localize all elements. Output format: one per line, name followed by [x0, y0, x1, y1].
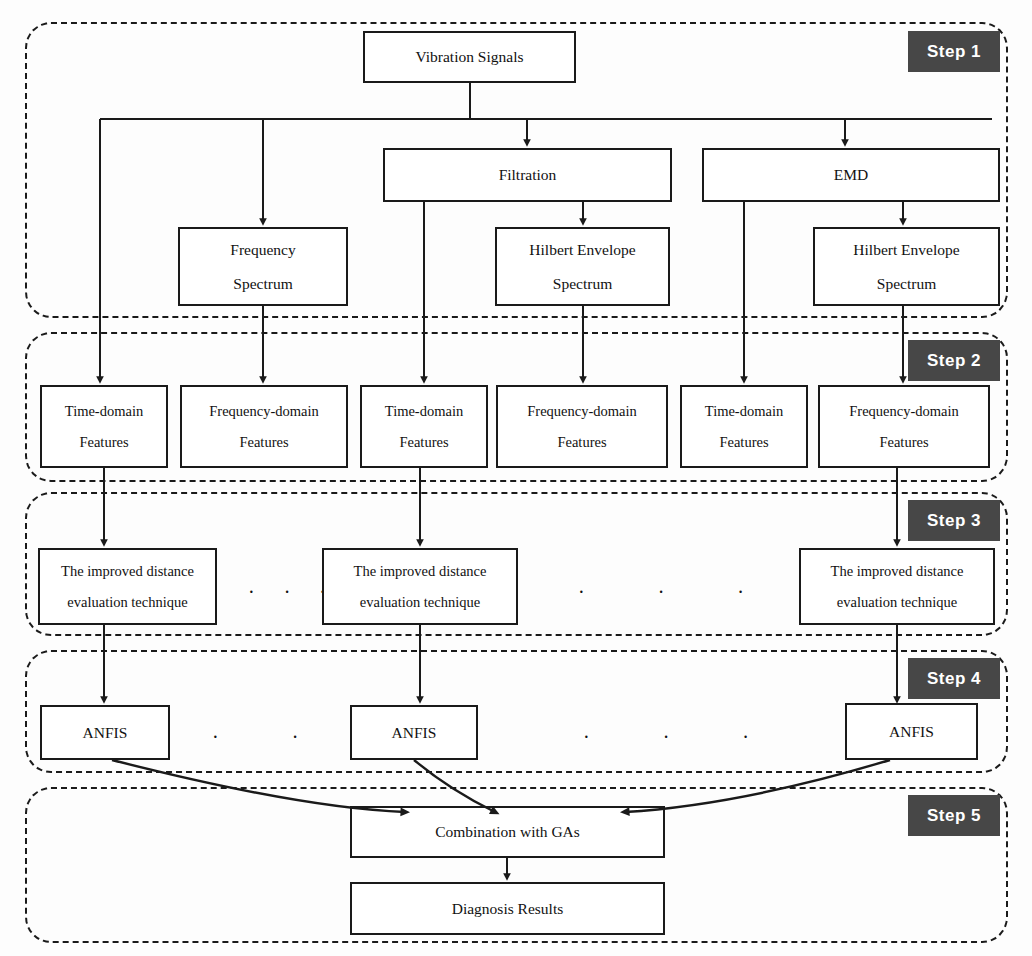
node-improved-distance-evaluation-1[interactable]: The improved distance evaluation techniq…	[38, 548, 217, 625]
node-combination-with-gas[interactable]: Combination with GAs	[350, 806, 665, 858]
step-1-badge: Step 1	[908, 31, 1000, 72]
node-anfis-1[interactable]: ANFIS	[40, 705, 170, 760]
node-emd[interactable]: EMD	[702, 148, 1000, 202]
node-label-line1: EMD	[834, 165, 868, 184]
step-3-label: Step 3	[927, 511, 981, 531]
node-label-line2: evaluation technique	[837, 593, 957, 611]
node-label-line1: ANFIS	[889, 722, 934, 741]
node-label-line1: The improved distance	[354, 562, 487, 580]
node-label-line2: Features	[879, 433, 928, 451]
step-4-badge: Step 4	[908, 658, 1000, 699]
node-hilbert-envelope-spectrum-2[interactable]: Hilbert Envelope Spectrum	[813, 227, 1000, 306]
node-filtration[interactable]: Filtration	[383, 148, 672, 202]
step-5-badge: Step 5	[908, 795, 1000, 836]
node-label-line1: Frequency	[230, 240, 295, 259]
node-label-line1: Hilbert Envelope	[529, 240, 635, 259]
node-label-line2: Spectrum	[553, 274, 612, 293]
node-anfis-2[interactable]: ANFIS	[350, 705, 478, 760]
step-2-badge: Step 2	[908, 340, 1000, 381]
node-anfis-3[interactable]: ANFIS	[845, 703, 978, 760]
step-1-label: Step 1	[927, 42, 981, 62]
node-improved-distance-evaluation-3[interactable]: The improved distance evaluation techniq…	[799, 548, 995, 625]
node-label-line1: Filtration	[499, 165, 557, 184]
ellipsis-step4-right: · · ·	[583, 727, 783, 747]
flowchart-canvas: Step 1 Step 2 Step 3 Step 4 Step 5 Vibra…	[0, 0, 1032, 956]
node-label-line1: Frequency-domain	[209, 402, 319, 420]
ellipsis-step3-right: · · ·	[578, 582, 778, 602]
step-5-label: Step 5	[927, 806, 981, 826]
step-4-label: Step 4	[927, 669, 981, 689]
node-frequency-spectrum[interactable]: Frequency Spectrum	[178, 227, 348, 306]
node-label-line2: Spectrum	[233, 274, 292, 293]
node-label-line1: The improved distance	[831, 562, 964, 580]
node-label-line2: Spectrum	[877, 274, 936, 293]
node-label-line1: The improved distance	[61, 562, 194, 580]
node-label-line1: ANFIS	[83, 723, 128, 742]
node-label-line1: Combination with GAs	[435, 822, 580, 841]
node-label-line1: Vibration Signals	[416, 47, 524, 66]
node-label-line1: Frequency-domain	[849, 402, 959, 420]
node-frequency-domain-features-1[interactable]: Frequency-domain Features	[180, 385, 348, 468]
node-label-line2: evaluation technique	[67, 593, 187, 611]
node-label-line1: Time-domain	[705, 402, 783, 420]
node-label-line2: Features	[79, 433, 128, 451]
node-label-line2: Features	[719, 433, 768, 451]
node-time-domain-features-1[interactable]: Time-domain Features	[40, 385, 168, 468]
node-diagnosis-results[interactable]: Diagnosis Results	[350, 882, 665, 935]
node-improved-distance-evaluation-2[interactable]: The improved distance evaluation techniq…	[322, 548, 518, 625]
node-label-line1: Frequency-domain	[527, 402, 637, 420]
node-time-domain-features-3[interactable]: Time-domain Features	[680, 385, 808, 468]
node-label-line1: ANFIS	[392, 723, 437, 742]
node-frequency-domain-features-2[interactable]: Frequency-domain Features	[496, 385, 668, 468]
node-label-line1: Time-domain	[65, 402, 143, 420]
node-hilbert-envelope-spectrum-1[interactable]: Hilbert Envelope Spectrum	[495, 227, 670, 306]
node-label-line2: Features	[557, 433, 606, 451]
node-label-line1: Time-domain	[385, 402, 463, 420]
node-label-line2: evaluation technique	[360, 593, 480, 611]
node-time-domain-features-2[interactable]: Time-domain Features	[360, 385, 488, 468]
node-label-line2: Features	[399, 433, 448, 451]
node-label-line2: Features	[239, 433, 288, 451]
node-label-line1: Diagnosis Results	[452, 899, 564, 918]
step-2-label: Step 2	[927, 351, 981, 371]
node-frequency-domain-features-3[interactable]: Frequency-domain Features	[818, 385, 990, 468]
node-label-line1: Hilbert Envelope	[853, 240, 959, 259]
node-vibration-signals[interactable]: Vibration Signals	[363, 31, 576, 83]
step-3-badge: Step 3	[908, 500, 1000, 541]
